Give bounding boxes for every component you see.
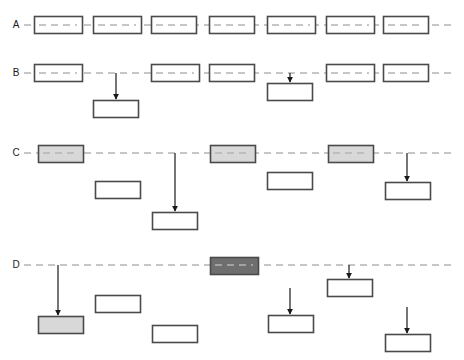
box-c1[interactable] — [39, 146, 84, 163]
box-d6[interactable] — [328, 280, 373, 297]
box-d3[interactable] — [153, 326, 198, 343]
box-c3[interactable] — [153, 213, 198, 230]
box-c4[interactable] — [211, 146, 256, 163]
box-c7[interactable] — [386, 183, 431, 200]
timeline-diagram: ABCD — [0, 0, 464, 360]
box-c5[interactable] — [268, 173, 313, 190]
box-d4[interactable] — [211, 258, 259, 275]
row-d-label: D — [12, 259, 19, 270]
box-b2[interactable] — [94, 101, 139, 118]
row-a-label: A — [13, 19, 20, 30]
box-d5[interactable] — [269, 316, 314, 333]
box-c2[interactable] — [96, 182, 141, 199]
box-d2[interactable] — [96, 296, 141, 313]
row-c: C — [12, 146, 452, 230]
row-a: A — [13, 17, 452, 34]
row-c-label: C — [12, 147, 19, 158]
diagram-canvas: ABCD — [0, 0, 464, 360]
box-d7[interactable] — [386, 335, 431, 352]
row-b-label: B — [13, 67, 20, 78]
box-c6[interactable] — [329, 146, 374, 163]
box-b5[interactable] — [268, 84, 313, 101]
box-d1[interactable] — [39, 317, 84, 334]
row-d: D — [12, 258, 452, 352]
row-b: B — [13, 65, 452, 118]
